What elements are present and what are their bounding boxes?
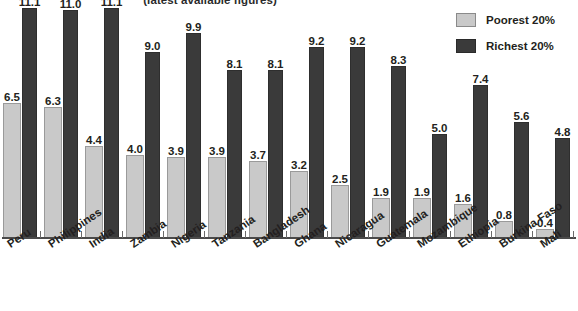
bar-group: 1.95.0: [413, 0, 454, 237]
axis-tick: [286, 231, 287, 238]
bar-group: 1.98.3: [372, 0, 413, 237]
bar-group: 2.59.2: [331, 0, 372, 237]
bar-value-richest: 8.1: [268, 58, 284, 70]
bar-value-poorest: 0.8: [496, 209, 512, 221]
bar-poorest[interactable]: 3.9: [167, 157, 185, 237]
axis-tick: [163, 231, 164, 238]
bar-poorest[interactable]: 2.5: [331, 185, 349, 237]
bar-value-poorest: 1.9: [414, 186, 430, 198]
bar-group: 0.85.6: [495, 0, 536, 237]
bar-group: 3.98.1: [208, 0, 249, 237]
bar-chart: (latest available figures) Poorest 20% R…: [0, 0, 578, 311]
plot-area: 6.511.16.311.04.411.14.09.03.99.93.98.13…: [0, 0, 578, 239]
bar-richest[interactable]: 8.3: [391, 66, 406, 237]
bar-group: 4.09.0: [126, 0, 167, 237]
axis-tick: [491, 231, 492, 238]
bar-richest[interactable]: 11.1: [22, 8, 37, 237]
bar-value-richest: 11.1: [101, 0, 123, 8]
axis-tick: [81, 231, 82, 238]
bar-group: 3.78.1: [249, 0, 290, 237]
bar-value-richest: 8.3: [391, 54, 407, 66]
bar-value-poorest: 3.2: [291, 159, 307, 171]
axis-tick: [122, 231, 123, 238]
bar-value-richest: 8.1: [227, 58, 243, 70]
bar-groups: 6.511.16.311.04.411.14.09.03.99.93.98.13…: [2, 0, 576, 238]
axis-tick: [409, 231, 410, 238]
bar-richest[interactable]: 8.1: [268, 70, 283, 237]
category-labels: PeruPhilippinesIndiaZambiaNigeriaTanzani…: [2, 240, 576, 300]
axis-tick: [204, 231, 205, 238]
bar-group: 6.311.0: [44, 0, 85, 237]
bar-value-poorest: 3.9: [209, 145, 225, 157]
bar-richest[interactable]: 8.1: [227, 70, 242, 237]
bar-richest[interactable]: 4.8: [555, 138, 570, 237]
bar-group: 4.411.1: [85, 0, 126, 237]
bar-poorest[interactable]: 6.5: [3, 103, 21, 237]
bar-value-richest: 5.0: [432, 122, 448, 134]
bar-richest[interactable]: 9.2: [350, 47, 365, 237]
bar-value-poorest: 6.3: [45, 95, 61, 107]
bar-value-richest: 4.8: [555, 126, 571, 138]
bar-value-poorest: 4.4: [86, 134, 102, 146]
axis-tick: [368, 231, 369, 238]
bar-value-poorest: 2.5: [332, 173, 348, 185]
bar-group: 3.29.2: [290, 0, 331, 237]
axis-tick: [532, 231, 533, 238]
bar-value-poorest: 6.5: [4, 91, 20, 103]
bar-richest[interactable]: 9.9: [186, 33, 201, 237]
bar-poorest[interactable]: 3.9: [208, 157, 226, 237]
bar-value-richest: 9.0: [145, 40, 161, 52]
axis-tick: [40, 231, 41, 238]
bar-group: 1.67.4: [454, 0, 495, 237]
axis-tick: [450, 231, 451, 238]
bar-richest[interactable]: 9.0: [145, 52, 160, 237]
bar-group: 6.511.1: [3, 0, 44, 237]
bar-value-richest: 11.0: [60, 0, 82, 10]
bar-value-richest: 5.6: [514, 110, 530, 122]
bar-value-poorest: 3.9: [168, 145, 184, 157]
bar-group: 3.99.9: [167, 0, 208, 237]
bar-value-poorest: 4.0: [127, 143, 143, 155]
bar-value-richest: 9.2: [350, 35, 366, 47]
axis-tick: [573, 231, 574, 238]
bar-richest[interactable]: 11.0: [63, 10, 78, 237]
bar-value-richest: 11.1: [19, 0, 41, 8]
bar-poorest[interactable]: 6.3: [44, 107, 62, 237]
bar-value-richest: 9.9: [186, 21, 202, 33]
bar-value-poorest: 3.7: [250, 149, 266, 161]
bar-richest[interactable]: 7.4: [473, 85, 488, 238]
bar-richest[interactable]: 9.2: [309, 47, 324, 237]
bar-richest[interactable]: 11.1: [104, 8, 119, 237]
bar-value-richest: 9.2: [309, 35, 325, 47]
axis-tick: [327, 231, 328, 238]
bar-value-richest: 7.4: [473, 73, 489, 85]
bar-value-poorest: 1.9: [373, 186, 389, 198]
bar-poorest[interactable]: 4.0: [126, 155, 144, 237]
axis-tick: [245, 231, 246, 238]
